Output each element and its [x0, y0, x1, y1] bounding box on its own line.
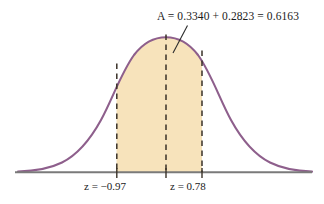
- shaded-area-region: [18, 37, 312, 172]
- normal-curve-plot: [0, 0, 324, 204]
- axis-label-z-left: z = −0.97: [84, 180, 126, 192]
- axis-label-z-right: z = 0.78: [170, 180, 206, 192]
- normal-distribution-figure: A = 0.3340 + 0.2823 = 0.6163 z = −0.97 z…: [0, 0, 324, 204]
- area-annotation-text: A = 0.3340 + 0.2823 = 0.6163: [157, 10, 299, 22]
